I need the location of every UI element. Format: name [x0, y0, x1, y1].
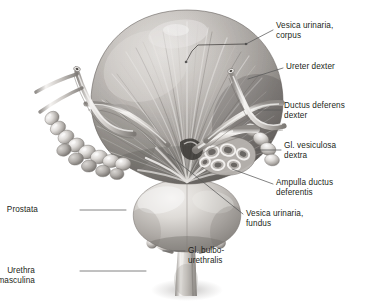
- label-ductus-deferens-dexter: Ductus deferens dexter: [284, 101, 345, 122]
- label-vesica-urinaria-corpus: Vesica urinaria, corpus: [276, 21, 333, 42]
- label-prostata: Prostata: [7, 205, 38, 215]
- anatomy-figure: Vesica urinaria, corpusUreter dexterDuct…: [0, 0, 375, 302]
- label-ampulla-ductus-deferentis: Ampulla ductus deferentis: [276, 178, 333, 199]
- label-vesica-urinaria-fundus: Vesica urinaria, fundus: [246, 209, 303, 230]
- label-gl-bulbourethralis: Gl. bulbo- urethralis: [188, 246, 224, 267]
- label-urethra-masculina: Urethra masculina: [0, 266, 35, 287]
- label-gl-vesiculosa-dextra: Gl. vesiculosa dextra: [284, 141, 336, 162]
- label-ureter-dexter: Ureter dexter: [286, 62, 335, 72]
